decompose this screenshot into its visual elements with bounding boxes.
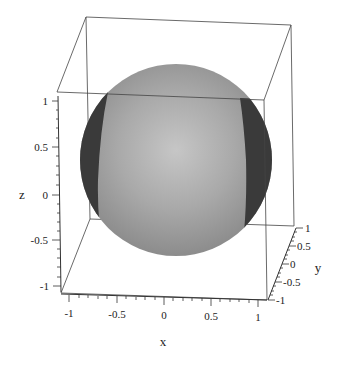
z-tick-label: 1 [43,95,49,107]
z-axis-label: z [19,187,25,202]
z-axis: 1 0.5 0 -0.5 -1 z [19,95,61,292]
y-axis: 1 0.5 0 -0.5 -1 y [268,222,322,306]
x-tick-label: 1 [255,311,261,323]
z-tick-label: -1 [40,280,49,292]
y-tick-label: 1 [305,222,311,234]
sphere-3d-plot[interactable]: 1 0.5 0 -0.5 -1 z -1 -0.5 0 0.5 1 x [0,0,343,368]
y-axis-label: y [315,260,322,275]
y-tick-label: 0 [290,258,296,270]
z-tick-label: 0.5 [34,141,48,153]
x-tick-label: -0.5 [108,308,126,320]
z-tick-label: -0.5 [31,234,49,246]
y-tick-label: -0.5 [283,276,301,288]
y-tick-label: -1 [276,294,285,306]
y-tick-label: 0.5 [297,240,311,252]
x-tick-label: 0 [161,309,167,321]
sphere-surface [70,60,280,260]
x-tick-label: -1 [64,307,73,319]
x-axis-label: x [160,334,167,349]
x-axis: -1 -0.5 0 0.5 1 x [61,294,267,349]
x-tick-label: 0.5 [204,310,218,322]
z-tick-label: 0 [43,189,49,201]
